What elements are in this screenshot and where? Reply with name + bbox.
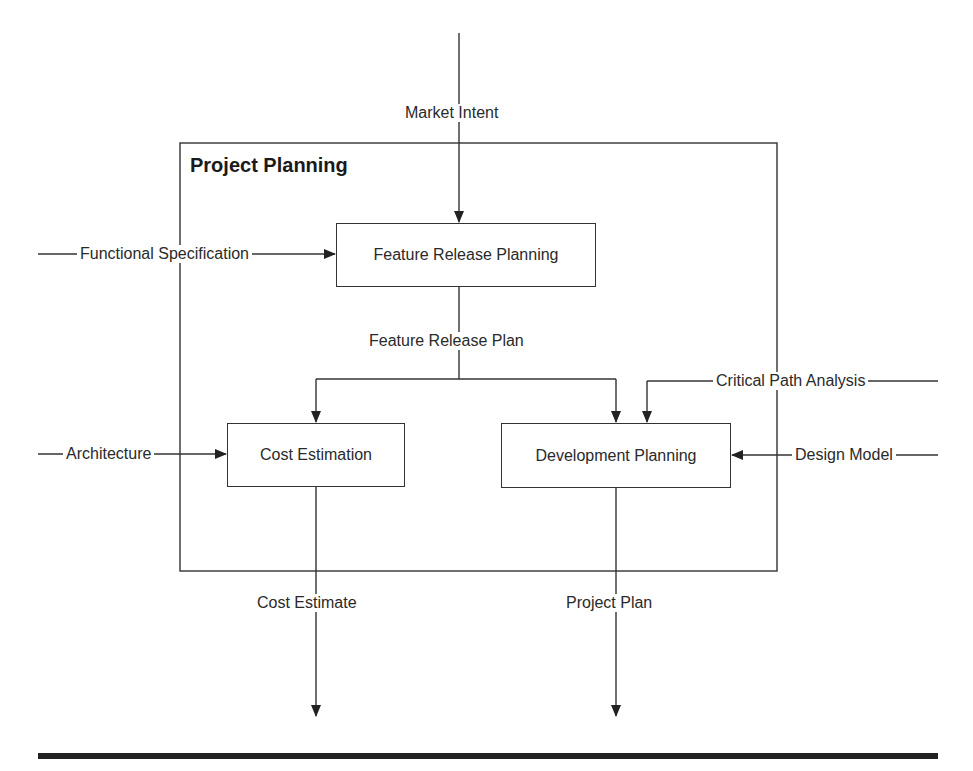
flow-label-market-intent: Market Intent — [402, 104, 501, 122]
process-cost-estimation[interactable]: Cost Estimation — [227, 423, 405, 487]
flow-label-cost-estimate: Cost Estimate — [254, 594, 360, 612]
process-feature-release-planning[interactable]: Feature Release Planning — [336, 223, 596, 287]
flow-label-design-model: Design Model — [792, 446, 896, 464]
flow-label-feature-release-plan: Feature Release Plan — [366, 332, 527, 350]
flow-label-architecture: Architecture — [63, 445, 154, 463]
flow-label-critical-path-analysis: Critical Path Analysis — [713, 372, 868, 390]
project-planning-container-border — [180, 143, 777, 571]
container-title: Project Planning — [190, 154, 348, 177]
flow-label-project-plan: Project Plan — [563, 594, 655, 612]
page-bottom-rule — [38, 753, 938, 759]
flow-label-functional-specification: Functional Specification — [77, 245, 252, 263]
process-development-planning[interactable]: Development Planning — [501, 423, 731, 488]
